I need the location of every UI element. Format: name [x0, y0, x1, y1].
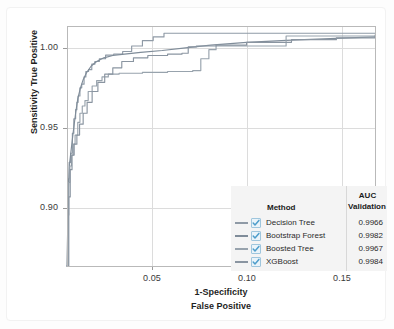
legend-line-swatch	[235, 261, 248, 263]
legend-method-label: Boosted Tree	[266, 244, 344, 253]
legend-method-label: Decision Tree	[266, 218, 344, 227]
x-axis-title-line2: False Positive	[161, 301, 281, 311]
y-axis-title-line2: True Positive	[29, 30, 39, 86]
x-axis-title-line1: 1-Specificity	[161, 287, 281, 297]
legend-line-swatch	[235, 248, 248, 250]
legend-header-validation: Validation	[347, 202, 387, 211]
legend-line-swatch	[235, 235, 248, 237]
legend-auc-value: 0.9984	[341, 257, 383, 266]
legend-header-auc: AUC	[349, 191, 386, 200]
legend-row[interactable]: Decision Tree0.9966	[231, 216, 387, 229]
checkbox-icon[interactable]	[251, 231, 261, 241]
legend-panel: Method AUC Validation Decision Tree0.996…	[231, 186, 387, 271]
legend-line-swatch	[235, 222, 248, 224]
legend-auc-value: 0.9966	[341, 218, 383, 227]
xtick-label-0.05: 0.05	[132, 273, 172, 283]
checkbox-icon[interactable]	[251, 244, 261, 254]
legend-header-method: Method	[267, 203, 295, 212]
legend-auc-value: 0.9982	[341, 231, 383, 240]
legend-row[interactable]: XGBoost0.9984	[231, 255, 387, 268]
legend-method-label: XGBoost	[266, 257, 344, 266]
legend-row[interactable]: Boosted Tree0.9967	[231, 242, 387, 255]
roc-chart-report: 1.00 0.95 0.90 0.05 0.10 0.15 Sensitivit…	[0, 0, 394, 329]
legend-auc-value: 0.9967	[341, 244, 383, 253]
legend-header: Method AUC Validation	[231, 189, 387, 215]
legend-rows: Decision Tree0.9966Bootstrap Forest0.998…	[231, 216, 387, 268]
y-axis-title: Sensitivity True Positive	[14, 22, 54, 142]
y-axis-title-line1: Sensitivity	[29, 89, 39, 134]
legend-row[interactable]: Bootstrap Forest0.9982	[231, 229, 387, 242]
roc-plot: 1.00 0.95 0.90 0.05 0.10 0.15 Sensitivit…	[0, 0, 394, 329]
ytick-label-0.90: 0.90	[28, 202, 58, 212]
checkbox-icon[interactable]	[251, 218, 261, 228]
xtick-label-0.15: 0.15	[322, 273, 362, 283]
legend-method-label: Bootstrap Forest	[266, 231, 344, 240]
xtick-label-0.10: 0.10	[227, 273, 267, 283]
checkbox-icon[interactable]	[251, 257, 261, 267]
